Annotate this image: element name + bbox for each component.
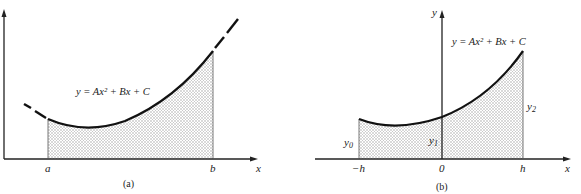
tick-label-h: h	[520, 162, 526, 174]
curve-dashed-right	[215, 37, 224, 48]
panel-a: y = Ax² + Bx + C a b x (a)	[2, 9, 262, 190]
equation-a: y = Ax² + Bx + C	[75, 86, 151, 97]
tick-label-neg-h: −h	[352, 162, 365, 174]
x-axis-arrow-b	[563, 157, 571, 162]
caption-b: (b)	[436, 181, 448, 193]
x-axis-label-a: x	[255, 162, 261, 174]
tick-label-zero: 0	[439, 162, 445, 174]
shaded-area-a	[48, 51, 213, 159]
shaded-area-b	[359, 51, 523, 159]
tick-label-a: a	[45, 162, 51, 174]
tick-label-b: b	[210, 162, 216, 174]
ordinate-label-y2: y2	[526, 100, 536, 114]
y-axis-arrow-b	[440, 10, 445, 18]
x-axis-label-b: x	[564, 162, 570, 174]
simpson-rule-diagram: y = Ax² + Bx + C a b x (a) y = Ax² + Bx …	[0, 0, 581, 194]
y-axis-arrow-a	[2, 9, 7, 17]
equation-b: y = Ax² + Bx + C	[451, 36, 527, 47]
curve-dashed-left-2	[35, 111, 46, 118]
caption-a: (a)	[123, 178, 134, 190]
y-axis-label-b: y	[431, 6, 437, 18]
ordinate-label-y0: y0	[343, 136, 353, 150]
x-axis-arrow-a	[250, 157, 258, 162]
panel-b: y = Ax² + Bx + C y x −h 0 h y0 y1 y2 (b)	[315, 6, 571, 193]
curve-dashed-right-2	[227, 19, 238, 33]
curve-dashed-left	[24, 104, 31, 108]
